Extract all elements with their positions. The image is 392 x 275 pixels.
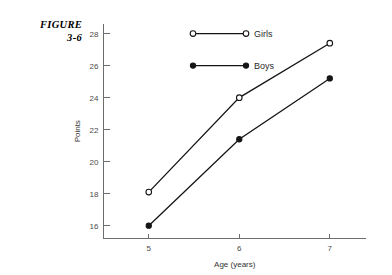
y-tick-label-20: 20 [90,158,99,167]
figure-root: FIGURE 3-6 16182022242628567Age (years)P… [0,0,392,275]
x-tick-label-6: 6 [237,244,242,253]
x-tick-label-7: 7 [328,244,333,253]
y-axis-title: Points [73,120,82,142]
y-tick-label-18: 18 [90,190,99,199]
legend-item-boys: Boys [190,61,274,71]
data-point-girls-6 [236,95,242,101]
legend-label-boys: Boys [254,61,275,71]
x-tick-label-5: 5 [147,244,152,253]
y-tick-label-16: 16 [90,222,99,231]
legend-marker-end-girls [243,31,249,37]
chart-axes [104,24,367,239]
data-point-boys-6 [237,137,242,142]
y-tick-label-28: 28 [90,30,99,39]
legend-label-girls: Girls [254,29,273,39]
legend-item-girls: Girls [190,29,273,39]
y-tick-label-22: 22 [90,126,99,135]
data-point-boys-7 [327,76,332,81]
y-tick-label-24: 24 [90,94,99,103]
data-point-boys-5 [146,223,151,228]
x-axis-title: Age (years) [214,260,256,269]
legend-marker-start-boys [190,63,195,68]
y-tick-label-26: 26 [90,62,99,71]
legend-marker-start-girls [190,31,196,37]
data-point-girls-7 [327,40,333,46]
legend-marker-end-boys [243,63,248,68]
line-chart: 16182022242628567Age (years)PointsGirlsB… [0,0,392,275]
data-point-girls-5 [146,189,152,195]
